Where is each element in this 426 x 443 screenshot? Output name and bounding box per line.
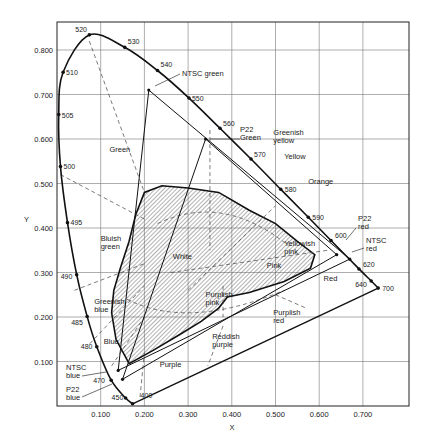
wavelength-point [66, 221, 70, 225]
leader-line [155, 74, 180, 86]
wavelength-label: 520 [75, 26, 87, 33]
gamut-vertex [204, 137, 207, 140]
wavelength-label: 530 [128, 38, 140, 45]
wavelength-label: 400 [141, 392, 153, 399]
wavelength-label: 480 [81, 343, 93, 350]
wavelength-label: 550 [192, 95, 204, 102]
wavelength-point [123, 46, 127, 50]
wavelength-label: 640 [355, 281, 367, 288]
region-label: Blue [104, 337, 119, 346]
region-boundary [89, 41, 144, 192]
wavelength-label: 485 [71, 319, 83, 326]
wavelength-label: 570 [254, 151, 266, 158]
region-label: green [101, 242, 120, 251]
leader-line [352, 248, 364, 252]
x-tick-label: 0.700 [354, 410, 373, 419]
wavelength-label: 540 [161, 61, 173, 68]
chart-svg: 0.1000.2000.3000.4000.5000.6000.7000.100… [0, 0, 426, 443]
wavelength-label: 490 [61, 273, 73, 280]
wavelength-point [218, 127, 222, 131]
annotation-label: blue [66, 371, 80, 380]
x-tick-label: 0.600 [310, 410, 329, 419]
wavelength-label: 500 [63, 163, 75, 170]
region-label: pink [206, 298, 220, 307]
gamut-vertex [117, 369, 120, 372]
x-tick-label: 0.400 [222, 410, 241, 419]
region-label: Purple [160, 360, 182, 369]
region-label: blue [94, 305, 108, 314]
region-label: Orange [308, 177, 333, 186]
annotation-label: NTSC green [182, 69, 224, 78]
region-label: Pink [267, 261, 282, 270]
wavelength-point [124, 396, 128, 400]
wavelength-label: 560 [223, 120, 235, 127]
x-tick-label: 0.500 [266, 410, 285, 419]
wavelength-point [279, 187, 283, 191]
x-tick-label: 0.200 [135, 410, 154, 419]
y-tick-label: 0.200 [34, 313, 53, 322]
y-tick-label: 0.800 [34, 46, 53, 55]
wavelength-point [57, 113, 61, 117]
wavelength-label: 620 [363, 261, 375, 268]
gamut-vertex [335, 253, 338, 256]
region-label: White [173, 252, 192, 261]
wavelength-point [85, 315, 89, 319]
region-boundary [276, 295, 307, 308]
x-axis-label: X [229, 423, 234, 432]
leader-line [82, 372, 106, 376]
y-axis-label: Y [24, 215, 29, 224]
gamut-vertex [121, 378, 124, 381]
wavelength-point [357, 267, 361, 271]
region-label: purple [212, 340, 233, 349]
wavelength-label: 470 [93, 377, 105, 384]
wavelength-label: 700 [382, 285, 394, 292]
chromaticity-diagram: 0.1000.2000.3000.4000.5000.6000.7000.100… [0, 0, 426, 443]
x-tick-label: 0.300 [179, 410, 198, 419]
leader-line [346, 228, 356, 240]
wavelength-label: 590 [312, 214, 324, 221]
wavelength-label: 510 [66, 69, 78, 76]
wavelength-point [369, 279, 373, 283]
gamut-vertex [348, 258, 351, 261]
wavelength-point [156, 69, 160, 73]
region-label: Green [109, 145, 130, 154]
wavelength-point [109, 378, 113, 382]
wavelength-label: 580 [285, 186, 297, 193]
wavelength-point [131, 402, 135, 406]
wavelength-point [187, 96, 191, 100]
wavelength-label: 600 [335, 232, 347, 239]
annotation-label: red [358, 222, 369, 231]
x-tick-label: 0.100 [91, 410, 110, 419]
wavelength-point [329, 239, 333, 243]
y-tick-label: 0.100 [34, 358, 53, 367]
annotation-label: blue [66, 393, 80, 402]
wavelength-point [95, 345, 99, 349]
region-label: Red [324, 274, 338, 283]
wavelength-label: 450 [112, 394, 124, 401]
wavelength-point [75, 273, 79, 277]
y-tick-label: 0.500 [34, 180, 53, 189]
wavelength-label: 505 [62, 112, 74, 119]
y-tick-label: 0.600 [34, 135, 53, 144]
region-label: pink [284, 247, 298, 256]
wavelength-point [376, 286, 380, 290]
region-label: yellow [273, 136, 294, 145]
gamut-vertex [147, 88, 150, 91]
annotation-label: red [366, 244, 377, 253]
annotation-label: Green [240, 133, 261, 142]
region-label: Yellow [284, 152, 306, 161]
region-boundary [60, 175, 144, 220]
wavelength-point [88, 33, 92, 37]
wavelength-point [59, 165, 63, 169]
leader-line [82, 384, 112, 397]
wavelength-label: 495 [70, 219, 82, 226]
wavelength-point [249, 157, 253, 161]
y-tick-label: 0.300 [34, 269, 53, 278]
wavelength-point [306, 216, 310, 220]
region-label: red [273, 316, 284, 325]
wavelength-point [61, 70, 65, 74]
y-tick-label: 0.700 [34, 91, 53, 100]
y-tick-label: 0.400 [34, 224, 53, 233]
